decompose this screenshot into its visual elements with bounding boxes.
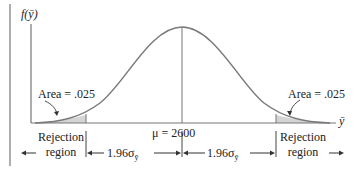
right-area-label: Area = .025 bbox=[288, 88, 345, 101]
right-rejection-label-line1: Rejection bbox=[277, 131, 329, 144]
left-distance-label: 1.96σȳ bbox=[107, 147, 138, 164]
right-rejection-label-line2: region bbox=[277, 146, 329, 159]
right-distance-label: 1.96σȳ bbox=[207, 147, 238, 164]
left-rejection-label-line2: region bbox=[36, 146, 86, 159]
left-area-label: Area = .025 bbox=[38, 88, 95, 101]
left-area-arrowhead bbox=[54, 111, 59, 116]
left-sigma-subscript: ȳ bbox=[134, 153, 138, 162]
left-outward-arrowhead bbox=[21, 151, 26, 156]
left-rejection-area bbox=[35, 115, 86, 123]
left-distance-arrowhead-a bbox=[87, 151, 92, 156]
right-outward-arrowhead bbox=[339, 151, 344, 156]
right-sigma-subscript: ȳ bbox=[234, 153, 238, 162]
mean-label: μ = 2600 bbox=[152, 127, 195, 140]
right-distance-arrowhead-b bbox=[270, 151, 275, 156]
left-distance-text: 1.96σ bbox=[107, 146, 134, 160]
x-axis-label: ȳ bbox=[339, 115, 344, 128]
left-rejection-label-line1: Rejection bbox=[36, 131, 86, 144]
right-rejection-area bbox=[276, 115, 330, 123]
right-distance-arrowhead-a bbox=[183, 151, 188, 156]
y-axis-label: f(ȳ) bbox=[21, 8, 38, 21]
left-distance-arrowhead-b bbox=[176, 151, 181, 156]
right-distance-text: 1.96σ bbox=[207, 146, 234, 160]
